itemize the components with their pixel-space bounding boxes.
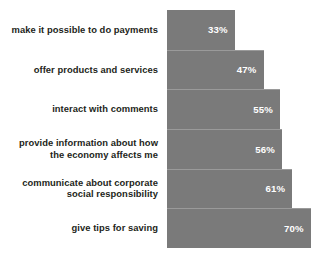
bar: 56% xyxy=(167,129,282,169)
chart-plot-area: make it possible to do payments 33% offe… xyxy=(0,10,317,248)
bar-value-label: 61% xyxy=(266,184,293,194)
chart-row: provide information about how the econom… xyxy=(0,129,317,169)
bar-value-label: 55% xyxy=(253,105,280,115)
bar: 47% xyxy=(167,50,264,90)
category-label: make it possible to do payments xyxy=(0,24,167,36)
bar-track: 33% xyxy=(167,10,317,50)
category-label: offer products and services xyxy=(0,64,167,76)
bar-track: 47% xyxy=(167,50,317,90)
chart-row: make it possible to do payments 33% xyxy=(0,10,317,50)
category-label: provide information about how the econom… xyxy=(0,137,167,160)
chart-row: give tips for saving 70% xyxy=(0,208,317,248)
bar: 55% xyxy=(167,89,280,129)
category-label: communicate about corporate social respo… xyxy=(0,177,167,200)
bar-value-label: 56% xyxy=(255,145,282,155)
chart-row: communicate about corporate social respo… xyxy=(0,169,317,209)
bar: 61% xyxy=(167,169,292,209)
bar-chart: make it possible to do payments 33% offe… xyxy=(0,0,317,259)
bar-value-label: 33% xyxy=(208,25,235,35)
bar-track: 56% xyxy=(167,129,317,169)
bar-track: 70% xyxy=(167,208,317,248)
chart-row: offer products and services 47% xyxy=(0,50,317,90)
bar: 70% xyxy=(167,208,311,248)
category-label: interact with comments xyxy=(0,103,167,115)
chart-row: interact with comments 55% xyxy=(0,89,317,129)
category-label: give tips for saving xyxy=(0,222,167,234)
bar: 33% xyxy=(167,10,235,50)
bar-track: 55% xyxy=(167,89,317,129)
bar-value-label: 47% xyxy=(237,65,264,75)
bar-value-label: 70% xyxy=(284,224,311,234)
bar-track: 61% xyxy=(167,169,317,209)
